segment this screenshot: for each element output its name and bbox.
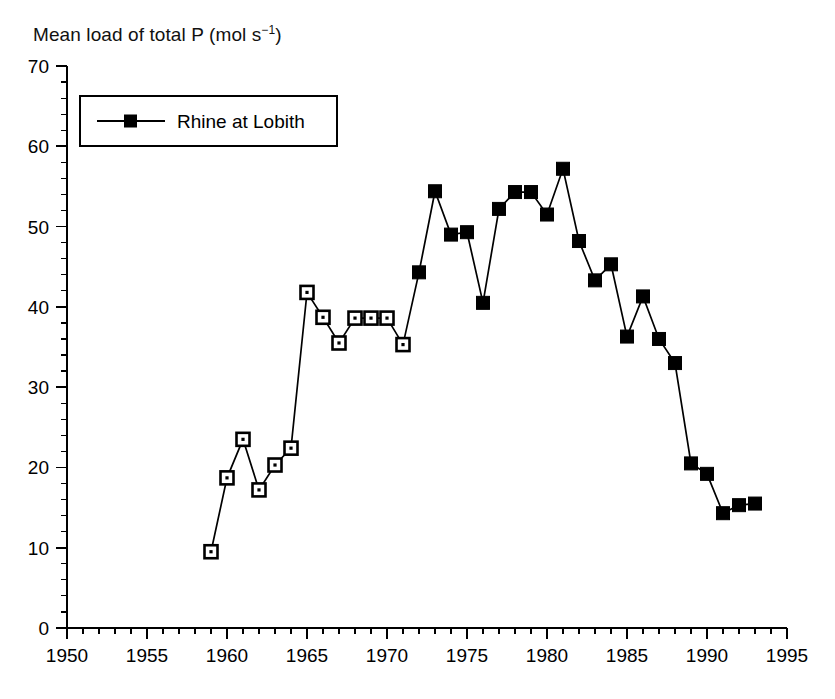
data-point-marker-center	[305, 291, 308, 294]
data-point-marker	[605, 258, 618, 271]
data-point-marker	[685, 457, 698, 470]
y-tick-label: 30	[28, 377, 49, 398]
x-tick-label: 1955	[126, 645, 168, 666]
y-tick-label: 70	[28, 56, 49, 77]
y-tick-label: 60	[28, 136, 49, 157]
x-tick-label: 1965	[286, 645, 328, 666]
data-point-marker-center	[209, 550, 212, 553]
data-point-marker	[637, 290, 650, 303]
data-point-marker	[557, 162, 570, 175]
y-axis: 010203040506070	[28, 56, 67, 639]
data-point-marker-center	[241, 438, 244, 441]
x-tick-label: 1975	[446, 645, 488, 666]
x-tick-label: 1960	[206, 645, 248, 666]
chart-plot-area: 010203040506070 195019551960196519701975…	[0, 0, 835, 699]
data-point-marker	[477, 296, 490, 309]
x-tick-label: 1995	[766, 645, 808, 666]
data-point-marker	[573, 235, 586, 248]
y-tick-label: 50	[28, 217, 49, 238]
x-tick-label: 1970	[366, 645, 408, 666]
data-point-marker-center	[289, 447, 292, 450]
x-tick-label: 1985	[606, 645, 648, 666]
data-point-marker	[525, 186, 538, 199]
data-point-marker	[749, 497, 762, 510]
x-tick-label: 1950	[46, 645, 88, 666]
data-point-marker	[493, 202, 506, 215]
data-point-marker-center	[401, 343, 404, 346]
data-point-marker	[461, 226, 474, 239]
y-tick-label: 10	[28, 538, 49, 559]
data-point-marker-center	[369, 317, 372, 320]
x-tick-label: 1990	[686, 645, 728, 666]
data-point-marker	[589, 274, 602, 287]
x-tick-label: 1980	[526, 645, 568, 666]
legend[interactable]: Rhine at Lobith	[80, 96, 337, 146]
data-point-marker	[509, 186, 522, 199]
data-point-marker	[541, 208, 554, 221]
y-tick-label: 0	[38, 618, 49, 639]
data-point-marker	[701, 467, 714, 480]
legend-entry-label: Rhine at Lobith	[177, 111, 305, 132]
y-tick-label: 40	[28, 297, 49, 318]
data-point-marker-center	[385, 317, 388, 320]
x-axis: 1950195519601965197019751980198519901995	[46, 628, 808, 666]
chart-container: Mean load of total P (mol s−1) 010203040…	[0, 0, 835, 699]
data-point-marker-center	[321, 316, 324, 319]
data-point-marker	[733, 499, 746, 512]
data-point-marker	[429, 185, 442, 198]
data-point-marker	[669, 357, 682, 370]
legend-sample-marker	[124, 115, 137, 128]
data-point-marker-center	[273, 463, 276, 466]
data-point-marker-center	[353, 317, 356, 320]
data-point-marker	[413, 266, 426, 279]
data-point-marker	[717, 507, 730, 520]
data-point-marker-center	[337, 341, 340, 344]
data-point-marker-center	[225, 476, 228, 479]
data-series-rhine-at-lobith	[205, 162, 762, 558]
data-point-marker	[621, 330, 634, 343]
data-point-marker	[445, 228, 458, 241]
data-point-marker	[653, 332, 666, 345]
data-point-marker-center	[257, 488, 260, 491]
y-tick-label: 20	[28, 457, 49, 478]
